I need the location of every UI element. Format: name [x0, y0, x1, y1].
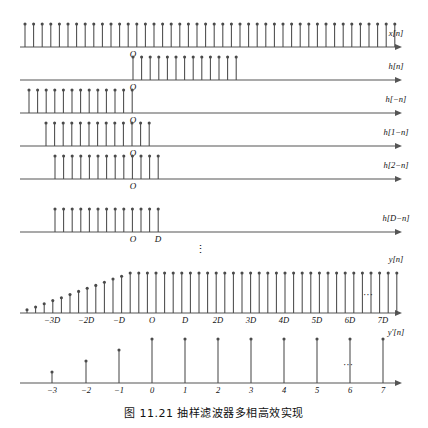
stem-h-1-minus-n-8 — [113, 121, 116, 146]
stem-h-D-minus-n-9 — [131, 207, 134, 232]
stem-y-n-18 — [180, 271, 183, 313]
stem-x-n-22 — [213, 22, 216, 47]
stem-h-1-minus-n-10 — [130, 121, 133, 146]
stem-head — [105, 88, 108, 91]
stem-head — [96, 121, 99, 124]
stem-x-n-5 — [66, 22, 69, 47]
stem-y-prime-n-6 — [249, 337, 252, 383]
stem-x-n-42 — [385, 22, 388, 47]
stem-x-n-29 — [273, 22, 276, 47]
signal-label-h-2-minus-n: h[2−n] — [383, 160, 408, 170]
stem-h-1-minus-n-7 — [105, 121, 108, 146]
tick-y-n-3: O — [149, 315, 155, 325]
signal-label-h-minus-n: h[−n] — [386, 94, 407, 104]
stem-head — [240, 271, 243, 274]
tick-y-prime-n-10: 7 — [381, 385, 386, 395]
stem-x-n-16 — [161, 22, 164, 47]
axis-arrowhead — [395, 143, 402, 149]
stem-head — [301, 271, 304, 274]
stem-head — [50, 370, 53, 373]
stem-head — [49, 22, 52, 25]
stem-head — [216, 337, 219, 340]
stem-head — [282, 337, 285, 340]
stem-head — [86, 287, 89, 290]
tick-y-n-8: 5D — [312, 315, 323, 325]
stem-x-n-4 — [58, 22, 61, 47]
stem-h-1-minus-n-11 — [139, 121, 142, 146]
signal-label-x-n: x[n] — [388, 28, 404, 38]
tick-y-prime-n-5: 2 — [216, 385, 221, 395]
stem-head — [113, 88, 116, 91]
tick-y-prime-n-6: 3 — [248, 385, 253, 395]
stem-head — [131, 207, 134, 210]
stem-head — [94, 284, 97, 287]
stem-x-n-18 — [178, 22, 181, 47]
stem-head — [70, 121, 73, 124]
stem-head — [118, 22, 121, 25]
stem-h-D-minus-n-12 — [157, 207, 160, 232]
stem-x-n-35 — [324, 22, 327, 47]
stem-x-n-13 — [135, 22, 138, 47]
stem-y-n-28 — [266, 271, 269, 313]
stem-head — [215, 271, 218, 274]
stem-head — [34, 305, 37, 308]
stem-head — [395, 271, 398, 274]
signal-label-y-n: y[n] — [388, 254, 404, 264]
stem-x-n-10 — [109, 22, 112, 47]
stem-y-n-25 — [240, 271, 243, 313]
stem-head — [195, 22, 198, 25]
stem-head — [122, 121, 125, 124]
tick-y-prime-n-7: 4 — [282, 385, 287, 395]
stem-head — [183, 55, 186, 58]
stem-head — [235, 55, 238, 58]
stem-head — [172, 271, 175, 274]
stem-head — [53, 121, 56, 124]
stem-head — [232, 271, 235, 274]
stem-head — [266, 271, 269, 274]
stem-h-n-10 — [217, 55, 220, 80]
stem-head — [217, 55, 220, 58]
stem-h-2-minus-n-12 — [157, 154, 160, 179]
stem-y-prime-n-8 — [315, 337, 318, 383]
stem-y-n-0 — [25, 308, 28, 313]
stem-y-n-14 — [146, 271, 149, 313]
row-h-minus-n: Oh[−n] — [20, 88, 406, 125]
stem-head — [307, 22, 310, 25]
stem-y-n-2 — [43, 302, 46, 313]
stem-h-n-1 — [140, 55, 143, 80]
stem-head — [247, 22, 250, 25]
origin-label-h-D-minus-n: O — [130, 234, 137, 244]
axis-x-n — [20, 44, 402, 50]
axis-h-minus-n — [20, 110, 402, 116]
stem-head — [192, 55, 195, 58]
stem-h-2-minus-n-3 — [79, 154, 82, 179]
signal-label-h-n: h[n] — [388, 61, 403, 71]
stem-x-n-37 — [342, 22, 345, 47]
stem-head — [213, 22, 216, 25]
stem-y-n-30 — [283, 271, 286, 313]
stem-head — [238, 22, 241, 25]
stem-head — [131, 154, 134, 157]
stem-y-n-31 — [292, 271, 295, 313]
stem-head — [105, 207, 108, 210]
stem-head — [256, 22, 259, 25]
stem-head — [139, 154, 142, 157]
stem-y-n-24 — [232, 271, 235, 313]
stem-head — [283, 271, 286, 274]
signal-plot: Ox[n]Oh[n]Oh[−n]Oh[1−n]Oh[2−n]ODh[D−n]⋮−… — [0, 0, 428, 400]
stem-x-n-34 — [316, 22, 319, 47]
stem-head — [131, 88, 134, 91]
stem-head — [206, 271, 209, 274]
stem-h-2-minus-n-10 — [139, 154, 142, 179]
stem-head — [385, 22, 388, 25]
stem-x-n-26 — [247, 22, 250, 47]
stem-x-n-24 — [230, 22, 233, 47]
ellipsis-y-prime-n: ··· — [343, 359, 353, 370]
stem-head — [315, 337, 318, 340]
stem-y-n-20 — [197, 271, 200, 313]
stem-y-n-17 — [172, 271, 175, 313]
axis-h-2-minus-n — [20, 176, 402, 182]
stem-head — [326, 271, 329, 274]
tick-y-prime-n-9: 6 — [348, 385, 353, 395]
stem-head — [84, 359, 87, 362]
